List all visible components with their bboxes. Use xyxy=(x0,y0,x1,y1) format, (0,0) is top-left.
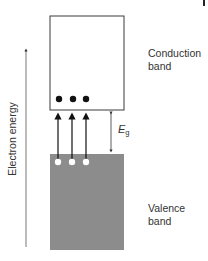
valence-band-label: Valence band xyxy=(148,202,185,227)
conduction-band-box xyxy=(50,16,124,110)
hole-dot xyxy=(55,159,61,165)
electron-energy-axis-label: Electron energy xyxy=(6,99,18,179)
corner-mark xyxy=(203,0,205,6)
hole-dot xyxy=(69,159,75,165)
holes xyxy=(55,159,89,165)
hole-dot xyxy=(83,159,89,165)
electron-dot xyxy=(83,96,89,102)
conduction-band-label: Conduction band xyxy=(148,47,201,72)
band-gap-label: Eg xyxy=(118,123,130,137)
valence-band-box xyxy=(50,154,124,250)
electrons xyxy=(56,96,89,102)
excitation-arrows xyxy=(58,116,86,159)
electron-dot xyxy=(56,96,62,102)
electron-dot xyxy=(70,96,76,102)
